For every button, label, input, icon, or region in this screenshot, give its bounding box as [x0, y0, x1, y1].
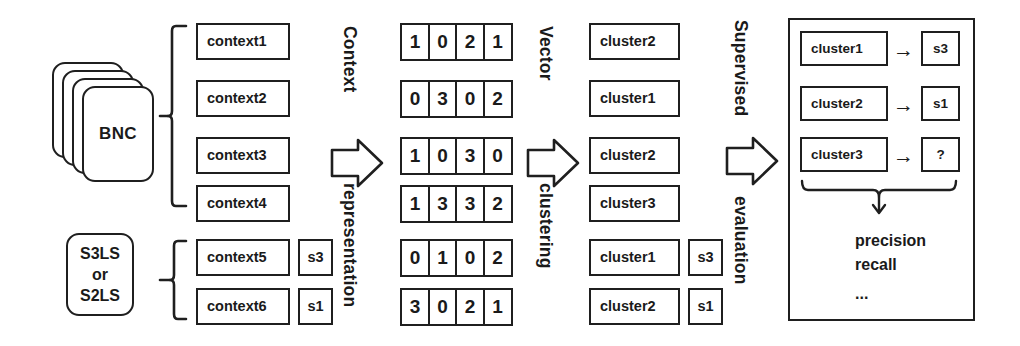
block-arrow-supervised-evaluation: [727, 138, 777, 184]
block-arrow-vector-clustering: [528, 140, 578, 186]
connector-overlay: [0, 0, 1020, 346]
eval-summary-brace: [802, 181, 956, 213]
bracket-lexsample-contexts: [170, 241, 186, 319]
bracket-bnc-contexts: [168, 26, 186, 206]
diagram-canvas: BNC S3LS or S2LS context1 context2 conte…: [0, 0, 1020, 346]
block-arrow-context-representation: [332, 140, 382, 186]
